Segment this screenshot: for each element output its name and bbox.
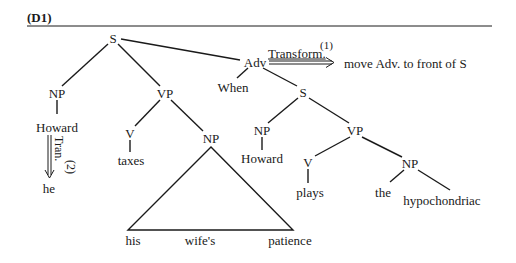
word-plays: plays [296, 186, 323, 199]
transform1-number: (1) [320, 39, 333, 52]
node-vp-left: VP [157, 87, 174, 100]
word-his: his [125, 234, 140, 247]
word-he: he [43, 182, 55, 195]
diagram-title: (D1) [27, 10, 52, 26]
edge-vp-v2 [315, 137, 350, 156]
node-s-sub: S [299, 86, 306, 99]
word-wifes: wife's [185, 234, 216, 247]
edge-vp-np2 [362, 137, 402, 157]
node-np-sub: NP [254, 124, 271, 137]
edge-np-hypochondriac [418, 170, 450, 190]
node-v-left: V [125, 127, 134, 140]
edge-subs-vp [309, 98, 349, 123]
node-vp-sub: VP [347, 124, 364, 137]
edge-subs-np [268, 98, 298, 123]
node-s-root: S [109, 32, 116, 45]
edge-s-np [62, 44, 108, 86]
word-howard-left: Howard [36, 121, 78, 134]
node-v-sub: V [303, 156, 312, 169]
edge-s-vp [118, 44, 160, 86]
word-howard-sub: Howard [241, 152, 283, 165]
transform2-label: Tran. [51, 136, 66, 161]
word-the: the [375, 186, 391, 199]
transform1-label: Transform. [268, 47, 326, 60]
edge-vp-v [135, 100, 160, 126]
transform1-arrowhead [326, 58, 334, 68]
transform2-arrowhead [45, 170, 54, 178]
edge-np-the [390, 170, 404, 182]
edge-s-adv [121, 39, 240, 60]
node-np-left: NP [49, 87, 66, 100]
transform2-number: (2) [63, 160, 78, 174]
edge-adv-s [263, 68, 297, 86]
word-when: When [217, 81, 248, 94]
node-np-object: NP [203, 132, 220, 145]
word-patience: patience [268, 234, 311, 247]
word-hypochondriac: hypochondriac [403, 194, 480, 207]
transform1-description: move Adv. to front of S [344, 57, 467, 70]
word-taxes: taxes [118, 154, 145, 167]
node-np-sub-object: NP [402, 157, 419, 170]
edge-adv-when [237, 68, 248, 78]
node-adv: Adv [244, 56, 266, 69]
edge-vp-np [171, 100, 203, 131]
